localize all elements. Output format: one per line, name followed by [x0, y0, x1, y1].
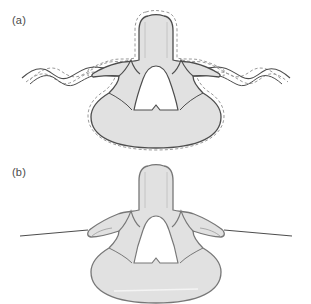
- tissue-line-left: [20, 230, 88, 236]
- panel-a-illustration: [0, 0, 311, 152]
- panel-b-illustration: [0, 152, 311, 304]
- vertebra-figure: (a): [0, 0, 311, 304]
- panel-b: (b): [0, 152, 311, 304]
- panel-a: (a): [0, 0, 311, 152]
- panel-a-label: (a): [12, 14, 26, 26]
- panel-b-label: (b): [12, 166, 26, 178]
- tissue-line-right: [224, 230, 292, 236]
